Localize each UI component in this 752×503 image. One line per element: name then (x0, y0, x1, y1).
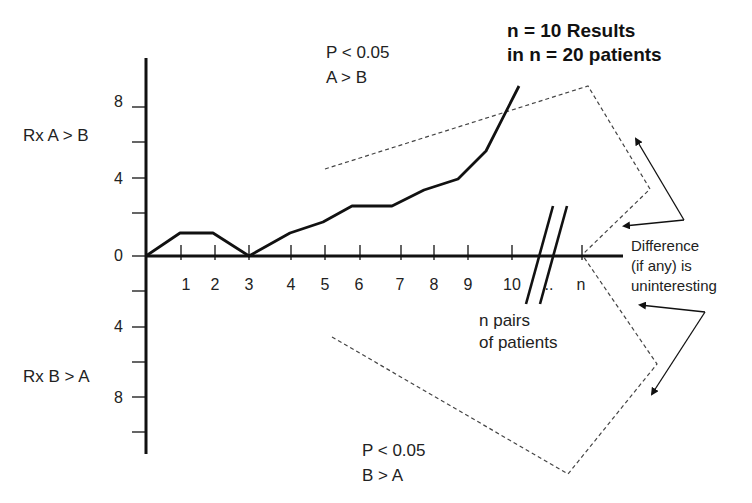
y-tick-label-4-lower: 4 (103, 318, 123, 336)
x-tick-label: 3 (245, 276, 254, 294)
lower-p-value: P < 0.05 (362, 438, 426, 463)
y-tick-label-8-upper: 8 (103, 93, 123, 111)
lower-direction: B > A (362, 463, 426, 488)
cumulative-result-line (146, 86, 519, 256)
uninteresting-label: Difference (if any) is uninteresting (631, 236, 717, 296)
y-tick-label-8-lower: 8 (103, 389, 123, 407)
title-line-2: in n = 20 patients (507, 43, 662, 67)
y-tick-label-4-upper: 4 (103, 170, 123, 188)
x-tick-label: 7 (396, 276, 405, 294)
x-tick-label: 2 (211, 276, 220, 294)
pairs-line-2: of patients (479, 332, 557, 354)
x-tick-label: 4 (287, 276, 296, 294)
x-tick-label: 9 (464, 276, 473, 294)
upper-significance-label: P < 0.05 A > B (326, 40, 390, 90)
y-axis-ticks (132, 107, 146, 432)
x-tick-label: n (577, 276, 586, 294)
y-tick-label-0: 0 (103, 247, 123, 265)
x-tick-label: 1 (182, 276, 191, 294)
x-tick-label: 5 (321, 276, 330, 294)
y-upper-label: Rx A > B (23, 126, 89, 146)
pairs-line-1: n pairs (479, 310, 557, 332)
uninteresting-line-2: (if any) is (631, 256, 717, 276)
chart-title: n = 10 Results in n = 20 patients (507, 19, 662, 67)
upper-direction: A > B (326, 65, 390, 90)
x-tick-label: 6 (355, 276, 364, 294)
x-tick-label: .. (545, 276, 554, 294)
upper-p-value: P < 0.05 (326, 40, 390, 65)
uninteresting-line-1: Difference (631, 236, 717, 256)
upper-boundary-dashed (325, 86, 650, 254)
y-lower-label: Rx B > A (23, 367, 90, 387)
x-tick-label: 8 (430, 276, 439, 294)
pairs-label: n pairs of patients (479, 310, 557, 354)
uninteresting-line-3: uninteresting (631, 276, 717, 296)
title-line-1: n = 10 Results (507, 19, 662, 43)
x-tick-label: 10 (503, 276, 521, 294)
lower-significance-label: P < 0.05 B > A (362, 438, 426, 488)
